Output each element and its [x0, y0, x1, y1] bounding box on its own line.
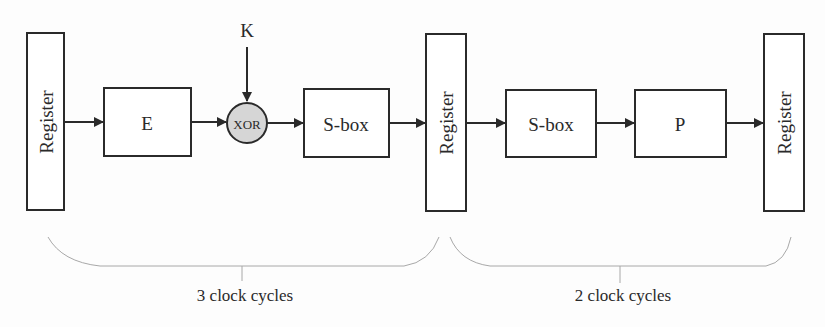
stage1-cycles-label: 3 clock cycles — [197, 286, 293, 305]
xor-node: XOR — [227, 103, 267, 143]
e-box-label: E — [141, 113, 153, 134]
sbox-1: S-box — [304, 89, 389, 157]
sbox-2-label: S-box — [528, 114, 574, 135]
register-2-label: Register — [436, 91, 457, 155]
register-2: Register — [426, 34, 466, 211]
pipeline-diagram: Register E K XOR S-box Register S-box — [0, 0, 825, 327]
p-box: P — [635, 90, 726, 157]
brace-stage2 — [450, 237, 791, 283]
register-3-label: Register — [774, 91, 795, 155]
sbox-2: S-box — [506, 90, 596, 157]
brace-stage1 — [48, 237, 439, 281]
xor-label: XOR — [233, 117, 261, 132]
sbox-1-label: S-box — [323, 114, 369, 135]
key-label: K — [240, 20, 254, 41]
stage2-cycles-label: 2 clock cycles — [575, 286, 671, 305]
register-1-label: Register — [36, 90, 57, 154]
register-3: Register — [764, 34, 804, 211]
e-box: E — [104, 88, 191, 156]
p-box-label: P — [675, 114, 686, 135]
register-1: Register — [27, 33, 64, 210]
